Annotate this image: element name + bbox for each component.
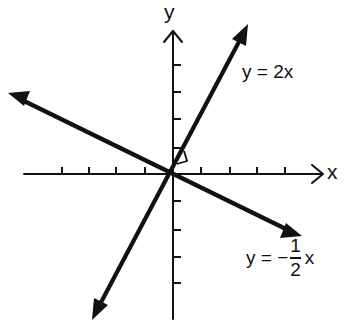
line-y-equals-neg-half-x [8,91,302,238]
arrowhead-icon [92,298,108,320]
fraction-one-half: 12 [290,236,301,280]
line-label-y-2x: y = 2x [242,62,293,81]
line-label-y-neg-half-x: y = −12x [246,236,314,280]
eq-suffix: x [305,247,315,268]
x-axis-label: x [327,161,338,182]
fraction-denominator: 2 [290,260,301,280]
eq-prefix: y = − [246,247,288,268]
arrowhead-icon [232,24,248,46]
fraction-numerator: 1 [290,236,301,256]
y-axis-label: y [164,1,175,22]
